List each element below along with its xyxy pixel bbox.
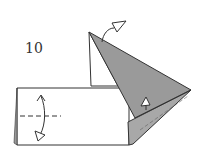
origami-diagram [0, 0, 204, 153]
rectangle-base [17, 88, 129, 145]
rectangle-left-edge [14, 88, 17, 145]
arrowhead-top [112, 21, 126, 32]
